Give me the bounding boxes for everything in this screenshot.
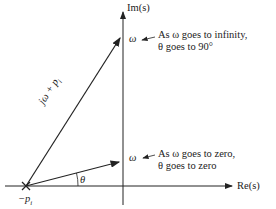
pole-label: −pi [18, 193, 32, 209]
vector-to-low-omega [26, 162, 119, 186]
omega-top-label: ω [129, 33, 136, 45]
note-top-line1: As ω goes to infinity, [158, 29, 247, 41]
annotation-arrow-bottom [143, 155, 155, 158]
pole-vector-diagram: Im(s) Re(s) ω ω θ As ω goes to infinity,… [0, 0, 276, 209]
theta-label: θ [80, 174, 85, 186]
note-bottom-line1: As ω goes to zero, [158, 148, 235, 160]
note-bottom-line2: θ goes to zero [158, 160, 216, 172]
annotation-arrow-top [142, 37, 155, 40]
note-top-line2: θ goes to 90° [158, 41, 213, 53]
im-axis-label: Im(s) [127, 2, 150, 14]
theta-arc [77, 173, 79, 186]
vector-to-high-omega [26, 38, 120, 186]
omega-bottom-label: ω [129, 152, 136, 164]
re-axis-label: Re(s) [237, 180, 260, 192]
